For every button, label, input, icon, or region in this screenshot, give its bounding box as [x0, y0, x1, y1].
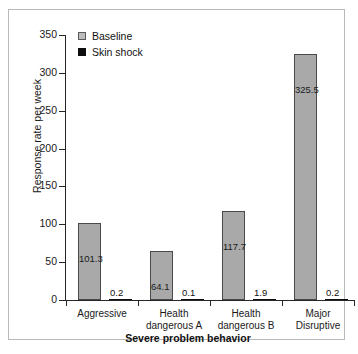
bar-skin-shock[interactable]	[109, 299, 132, 300]
x-category-label-line: dangerous B	[210, 320, 282, 332]
y-tick-label: 150	[15, 185, 57, 186]
bar-baseline[interactable]	[222, 211, 245, 300]
x-category-label: Healthdangerous B	[210, 308, 282, 331]
bar-skin-shock[interactable]	[325, 299, 348, 300]
bar-skin-shock[interactable]	[181, 299, 204, 300]
bar-value-baseline: 101.3	[79, 253, 103, 264]
skin-shock-swatch-icon	[78, 48, 86, 56]
bar-value-baseline: 325.5	[295, 84, 319, 95]
bar-skin-shock[interactable]	[253, 299, 276, 300]
x-category-label: MajorDisruptive	[282, 308, 354, 331]
y-tick-label: 0	[15, 299, 57, 300]
bar-value-skin-shock: 0.1	[182, 287, 195, 298]
y-tick-mark	[59, 224, 65, 225]
legend-item-baseline: Baseline	[78, 29, 143, 43]
x-category-label: Healthdangerous A	[138, 308, 210, 331]
bar-value-baseline: 64.1	[151, 281, 170, 292]
x-category-label-line: Major	[282, 308, 354, 320]
x-tick-mark	[66, 301, 67, 306]
x-axis-title: Severe problem behavior	[9, 332, 358, 344]
legend-item-skin-shock: Skin shock	[78, 45, 143, 59]
y-tick-mark	[59, 186, 65, 187]
y-tick-label: 100	[15, 223, 57, 224]
bar-value-baseline: 117.7	[223, 241, 246, 252]
x-category-label-line: Health	[210, 308, 282, 320]
bar-value-skin-shock: 0.2	[326, 287, 339, 298]
y-tick-label: 350	[15, 34, 57, 35]
x-tick-mark	[282, 301, 283, 306]
x-category-label-line: Disruptive	[282, 320, 354, 332]
y-tick-mark	[59, 35, 65, 36]
legend-label-skin-shock: Skin shock	[92, 46, 143, 58]
y-tick-mark	[59, 73, 65, 74]
y-tick-mark	[59, 149, 65, 150]
x-category-label-line: Health	[138, 308, 210, 320]
baseline-swatch-icon	[78, 32, 86, 40]
bar-value-skin-shock: 0.2	[110, 287, 123, 298]
x-category-label: Aggressive	[66, 308, 138, 320]
x-category-label-line: Aggressive	[66, 308, 138, 320]
plot-area: 101.30.264.10.1117.71.9325.50.2	[66, 35, 354, 300]
y-tick-label: 200	[15, 148, 57, 149]
y-tick-label: 50	[15, 261, 57, 262]
figure-frame: Response rate per week 05010015020025030…	[8, 9, 345, 340]
bar-value-skin-shock: 1.9	[254, 287, 267, 298]
bar-baseline[interactable]	[150, 251, 173, 300]
x-tick-mark	[354, 301, 355, 306]
x-category-label-line: dangerous A	[138, 320, 210, 332]
x-tick-mark	[210, 301, 211, 306]
y-tick-mark	[59, 262, 65, 263]
y-tick-label: 300	[15, 72, 57, 73]
chart-legend: Baseline Skin shock	[78, 29, 143, 61]
legend-label-baseline: Baseline	[92, 30, 132, 42]
y-tick-mark	[59, 300, 65, 301]
x-tick-mark	[138, 301, 139, 306]
y-tick-label: 250	[15, 110, 57, 111]
y-tick-mark	[59, 111, 65, 112]
